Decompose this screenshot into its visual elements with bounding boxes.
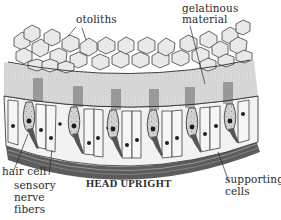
label-otoliths: otoliths <box>76 14 117 25</box>
otolith-crystals <box>14 20 252 73</box>
label-sensory-line3: fibers <box>14 204 45 215</box>
label-supporting-line2: cells <box>225 186 250 197</box>
label-sensory-line2: nerve <box>14 192 45 203</box>
label-supporting-line1: supporting <box>225 174 281 185</box>
label-gelatinous-line2: material <box>182 14 227 25</box>
label-hair-cell: hair cell <box>2 166 46 177</box>
diagram-caption: HEAD UPRIGHT <box>86 178 172 189</box>
label-sensory-line1: sensory <box>14 180 56 191</box>
